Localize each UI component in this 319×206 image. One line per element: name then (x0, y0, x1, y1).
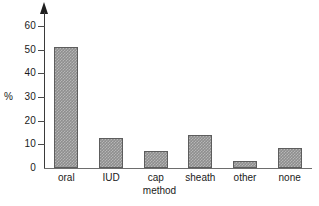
x-axis-tick-label-none: none (256, 172, 319, 183)
x-axis-label: method (0, 185, 319, 196)
bar-cap (144, 151, 168, 168)
bar-chart-figure: 0102030405060 % oralIUDcapsheathothernon… (0, 0, 319, 206)
clipped-caption-sliver (8, 199, 158, 205)
bars-container (44, 14, 312, 168)
bar-none (278, 148, 302, 168)
bar-sheath (188, 135, 212, 168)
bar-iud (99, 138, 123, 168)
x-axis-line (44, 168, 312, 169)
y-axis-label: % (4, 92, 13, 102)
y-axis-tick-label: 50 (12, 45, 36, 55)
bar-other (233, 161, 257, 168)
y-axis-tick-label: 10 (12, 139, 36, 149)
y-axis-tick-label: 40 (12, 68, 36, 78)
y-axis-tick-label: 30 (12, 92, 36, 102)
y-axis-tick-label: 20 (12, 116, 36, 126)
bar-oral (54, 47, 78, 168)
y-axis-tick-label: 60 (12, 21, 36, 31)
